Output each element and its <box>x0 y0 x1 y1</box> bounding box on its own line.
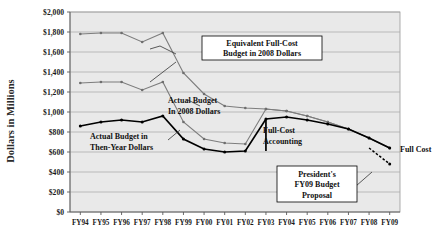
data-point <box>203 93 206 96</box>
data-point <box>120 81 123 84</box>
data-point <box>99 121 102 124</box>
data-point <box>223 105 226 108</box>
y-tick-label: $1,400 <box>43 68 64 77</box>
annotation-line: President's <box>298 170 336 179</box>
y-tick-label: $1,000 <box>43 108 64 117</box>
data-point <box>141 89 144 92</box>
data-point <box>162 32 165 35</box>
data-point <box>203 148 206 151</box>
data-point <box>388 147 391 150</box>
data-point <box>223 151 226 154</box>
y-tick-label: $1,800 <box>43 28 64 37</box>
annotation-actual-budget-then-year: Actual Budget inThen-Year Dollars <box>90 132 153 152</box>
y-tick-label: $1,600 <box>43 48 64 57</box>
y-tick-label: $200 <box>49 188 64 197</box>
annotation-line: Budget in 2008 Dollars <box>223 49 301 58</box>
chart-canvas: Dollars in Millions $0$200$400$600$800$1… <box>0 0 437 243</box>
y-tick-label: $0 <box>56 208 64 217</box>
data-point <box>182 138 185 141</box>
x-tick-label: FY02 <box>237 219 254 227</box>
budget-trend-chart: Dollars in Millions $0$200$400$600$800$1… <box>0 0 437 243</box>
y-tick-label: $400 <box>49 168 64 177</box>
x-tick-label: FY08 <box>361 219 378 227</box>
data-point <box>79 125 82 128</box>
x-tick-label: FY98 <box>154 219 171 227</box>
annotation-actual-budget-2008: Actual BudgetIn 2008 Dollars <box>168 96 220 116</box>
data-point <box>223 142 226 145</box>
annotation-full-cost: Full Cost <box>400 145 432 154</box>
data-point <box>100 81 103 84</box>
data-point <box>347 128 350 131</box>
annotation-line: Actual Budget in <box>90 132 148 141</box>
data-point <box>326 123 329 126</box>
data-point <box>203 138 206 141</box>
x-tick-label: FY04 <box>278 219 295 227</box>
x-tick-label: FY06 <box>319 219 336 227</box>
data-point <box>388 163 391 166</box>
data-point <box>79 33 82 36</box>
x-tick-label: FY00 <box>196 219 213 227</box>
data-point <box>244 107 247 110</box>
annotation-line: FY09 Budget <box>294 180 339 189</box>
data-point <box>182 121 185 124</box>
data-point <box>285 110 288 113</box>
annotation-line: Accounting <box>263 137 302 146</box>
y-axis-title: Dollars in Millions <box>5 79 16 162</box>
data-point <box>306 115 309 118</box>
x-tick-label: FY94 <box>72 219 89 227</box>
annotation-line: Full-Cost <box>263 126 295 135</box>
annotation-line: Proposal <box>302 191 333 200</box>
data-point <box>120 32 123 35</box>
data-point <box>162 81 165 84</box>
data-point <box>141 121 144 124</box>
annotation-line: Full Cost <box>400 145 432 154</box>
annotation-presidents-fy09: President'sFY09 BudgetProposal <box>277 166 357 202</box>
annotation-equivalent-full-cost: Equivalent Full-CostBudget in 2008 Dolla… <box>202 36 322 60</box>
data-point <box>141 41 144 44</box>
data-point <box>182 72 185 75</box>
annotation-line: Then-Year Dollars <box>90 143 153 152</box>
data-point <box>265 108 268 111</box>
annotation-line: Actual Budget <box>168 96 217 105</box>
x-tick-label: FY99 <box>175 219 192 227</box>
y-tick-label: $600 <box>49 148 64 157</box>
x-tick-label: FY09 <box>381 219 398 227</box>
data-point <box>100 32 103 35</box>
y-tick-label: $1,200 <box>43 88 64 97</box>
x-tick-label: FY96 <box>113 219 130 227</box>
data-point <box>120 119 123 122</box>
data-point <box>306 119 309 122</box>
x-tick-label: FY95 <box>93 219 110 227</box>
data-point <box>161 115 164 118</box>
x-tick-label: FY05 <box>299 219 316 227</box>
data-point <box>244 143 247 146</box>
x-tick-label: FY03 <box>258 219 275 227</box>
data-point <box>244 150 247 153</box>
y-tick-label: $2,000 <box>43 8 64 17</box>
x-tick-label: FY97 <box>134 219 151 227</box>
data-point <box>368 137 371 140</box>
y-tick-label: $800 <box>49 128 64 137</box>
data-point <box>285 116 288 119</box>
annotation-line: In 2008 Dollars <box>168 107 220 116</box>
annotation-line: Equivalent Full-Cost <box>226 39 298 48</box>
x-tick-label: FY07 <box>340 219 357 227</box>
x-tick-label: FY01 <box>216 219 233 227</box>
data-point <box>79 82 82 85</box>
